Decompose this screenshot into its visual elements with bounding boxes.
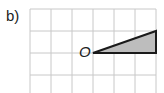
- grid-diagram: O: [0, 0, 164, 93]
- origin-label: O: [79, 43, 91, 60]
- shaded-triangle: [93, 31, 156, 53]
